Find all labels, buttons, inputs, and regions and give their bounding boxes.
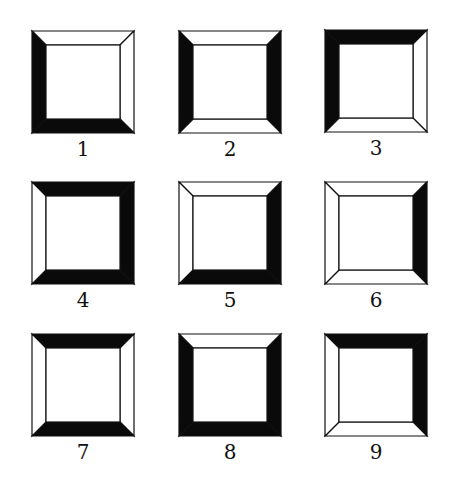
frame-5-bottom-side (179, 270, 281, 284)
frame-3-bottom-side (325, 118, 427, 132)
beveled-frame-5 (178, 181, 282, 285)
frame-2-right-side (267, 31, 281, 133)
frame-3-top-side (325, 30, 427, 44)
frame-9-left-side (325, 334, 339, 436)
frame-cell-2: 2 (178, 30, 282, 160)
frame-6-left-side (325, 182, 339, 284)
frame-1-right-side (120, 31, 134, 133)
frame-8-right-side (267, 334, 281, 436)
frame-4-top-side (32, 182, 134, 196)
frame-cell-6: 6 (324, 181, 428, 311)
frame-cell-1: 1 (31, 30, 135, 160)
frame-9-bottom-side (325, 422, 427, 436)
frame-label: 5 (178, 290, 282, 310)
frame-4-right-side (120, 182, 134, 284)
frame-8-inner-square (193, 348, 267, 422)
frame-4-inner-square (46, 196, 120, 270)
frame-label: 1 (31, 139, 135, 159)
frame-2-bottom-side (179, 119, 281, 133)
frame-9-inner-square (339, 348, 413, 422)
frame-cell-5: 5 (178, 181, 282, 311)
frame-7-inner-square (46, 348, 120, 422)
frame-1-inner-square (46, 45, 120, 119)
beveled-frame-8 (178, 333, 282, 437)
beveled-frame-6 (324, 181, 428, 285)
frame-3-right-side (413, 30, 427, 132)
frame-1-left-side (32, 31, 46, 133)
frame-cell-7: 7 (31, 333, 135, 463)
frame-5-left-side (179, 182, 193, 284)
frame-5-inner-square (193, 196, 267, 270)
frame-8-bottom-side (179, 422, 281, 436)
frame-cell-8: 8 (178, 333, 282, 463)
frame-8-top-side (179, 334, 281, 348)
frame-7-right-side (120, 334, 134, 436)
frame-7-left-side (32, 334, 46, 436)
frame-9-right-side (413, 334, 427, 436)
frame-label: 7 (31, 442, 135, 462)
frame-2-top-side (179, 31, 281, 45)
frame-4-left-side (32, 182, 46, 284)
frame-2-inner-square (193, 45, 267, 119)
frame-6-top-side (325, 182, 427, 196)
frame-cell-3: 3 (324, 29, 428, 159)
beveled-frame-1 (31, 30, 135, 134)
frame-4-bottom-side (32, 270, 134, 284)
frame-3-left-side (325, 30, 339, 132)
frame-cell-9: 9 (324, 333, 428, 463)
frame-1-bottom-side (32, 119, 134, 133)
frame-7-top-side (32, 334, 134, 348)
frame-3-inner-square (339, 44, 413, 118)
frame-label: 4 (31, 290, 135, 310)
frame-label: 3 (324, 138, 428, 158)
beveled-frame-3 (324, 29, 428, 133)
frame-8-left-side (179, 334, 193, 436)
frame-label: 2 (178, 139, 282, 159)
beveled-frame-4 (31, 181, 135, 285)
beveled-frame-2 (178, 30, 282, 134)
frame-1-top-side (32, 31, 134, 45)
frame-6-bottom-side (325, 270, 427, 284)
frame-label: 6 (324, 290, 428, 310)
frame-cell-4: 4 (31, 181, 135, 311)
frame-7-bottom-side (32, 422, 134, 436)
frame-9-top-side (325, 334, 427, 348)
frame-6-inner-square (339, 196, 413, 270)
frame-6-right-side (413, 182, 427, 284)
frame-5-right-side (267, 182, 281, 284)
beveled-frame-7 (31, 333, 135, 437)
frames-figure: 1 2 3 4 5 6 7 8 9 (0, 0, 450, 480)
frame-5-top-side (179, 182, 281, 196)
frame-label: 8 (178, 442, 282, 462)
beveled-frame-9 (324, 333, 428, 437)
frame-label: 9 (324, 442, 428, 462)
frame-2-left-side (179, 31, 193, 133)
